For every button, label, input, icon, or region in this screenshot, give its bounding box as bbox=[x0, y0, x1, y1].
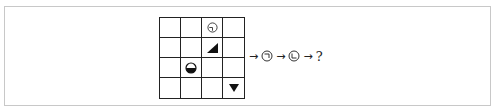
grid-cell bbox=[223, 78, 244, 98]
grid-cell bbox=[202, 38, 223, 58]
circle-corner-top-right-icon bbox=[261, 50, 273, 62]
grid-cell bbox=[160, 38, 181, 58]
grid-cell bbox=[202, 18, 223, 38]
grid-cell bbox=[202, 58, 223, 78]
grid-cell bbox=[202, 78, 223, 98]
black-triangle-icon bbox=[207, 43, 218, 53]
down-triangle-icon bbox=[229, 84, 239, 92]
question-mark: ? bbox=[316, 49, 323, 64]
circle-corner-bottom-left-icon bbox=[288, 50, 300, 62]
grid-cell bbox=[160, 78, 181, 98]
grid-cell bbox=[223, 18, 244, 38]
half-circle-icon bbox=[185, 62, 197, 74]
grid-cell bbox=[181, 58, 202, 78]
symbol-sequence: → → → ? bbox=[249, 48, 323, 64]
grid-cell bbox=[181, 38, 202, 58]
puzzle-frame bbox=[4, 6, 491, 106]
grid-cell bbox=[181, 78, 202, 98]
grid-cell bbox=[223, 38, 244, 58]
symbol-grid bbox=[159, 17, 245, 99]
grid-cell bbox=[223, 58, 244, 78]
arrow-icon: → bbox=[303, 50, 312, 63]
grid-cell bbox=[160, 18, 181, 38]
grid-cell bbox=[160, 58, 181, 78]
circle-notch-icon bbox=[207, 22, 218, 33]
grid-cell bbox=[181, 18, 202, 38]
arrow-icon: → bbox=[249, 50, 258, 63]
arrow-icon: → bbox=[276, 50, 285, 63]
